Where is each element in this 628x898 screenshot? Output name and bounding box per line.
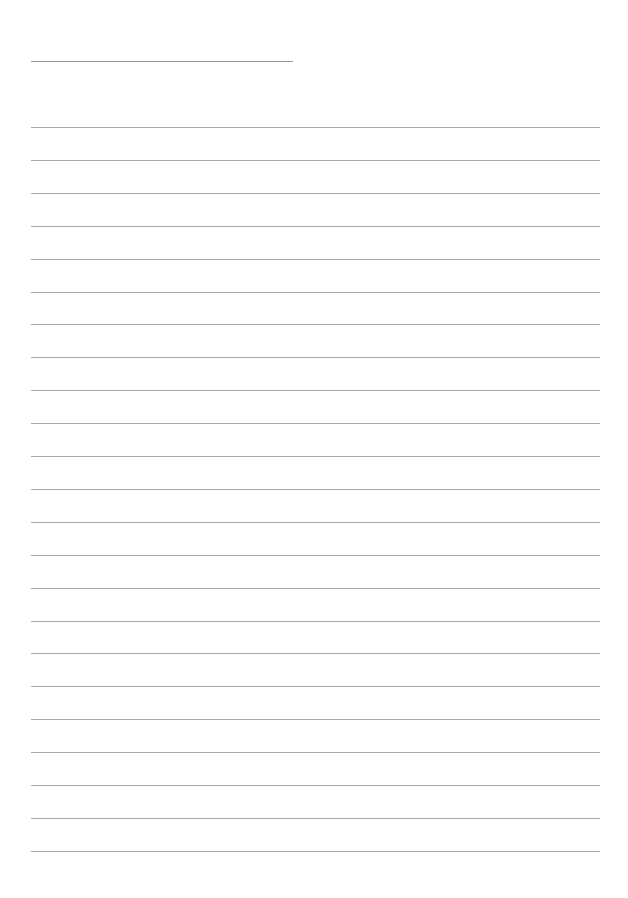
ruled-line — [31, 127, 600, 128]
ruled-line — [31, 324, 600, 325]
ruled-line — [31, 193, 600, 194]
ruled-line — [31, 160, 600, 161]
ruled-line — [31, 851, 600, 852]
ruled-line — [31, 390, 600, 391]
ruled-line — [31, 226, 600, 227]
ruled-line — [31, 357, 600, 358]
ruled-line — [31, 522, 600, 523]
ruled-line — [31, 423, 600, 424]
ruled-line — [31, 456, 600, 457]
ruled-line — [31, 719, 600, 720]
ruled-line — [31, 752, 600, 753]
ruled-line — [31, 621, 600, 622]
ruled-line — [31, 818, 600, 819]
ruled-line — [31, 686, 600, 687]
ruled-line — [31, 259, 600, 260]
ruled-line — [31, 588, 600, 589]
ruled-line — [31, 785, 600, 786]
ruled-line — [31, 555, 600, 556]
ruled-line — [31, 653, 600, 654]
ruled-line — [31, 489, 600, 490]
header-name-line — [31, 61, 293, 62]
lined-paper-page — [0, 0, 628, 898]
ruled-line — [31, 292, 600, 293]
